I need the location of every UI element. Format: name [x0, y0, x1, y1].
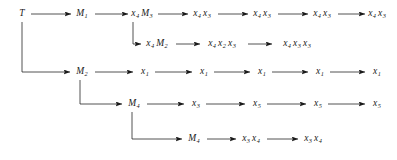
node-start-symbol: T	[19, 9, 24, 19]
edge-t-branch-to-m2	[22, 22, 70, 72]
node-x1-step4: x1	[316, 67, 324, 77]
node-m4-upper: M4	[128, 99, 139, 109]
node-m1: M1	[76, 9, 87, 19]
node-x5-step3: x5	[373, 99, 381, 109]
edge-x4m3-branch-to-x4m2	[133, 22, 141, 44]
edge-m2-branch-to-m4	[80, 80, 122, 104]
node-m4-lower: M4	[188, 134, 199, 144]
node-x4-x3-step2: x4x3	[253, 9, 271, 19]
node-x4-x3-step1: x4x3	[193, 9, 211, 19]
node-x1-step2: x1	[200, 67, 208, 77]
node-x4-m2: x4M2	[146, 39, 167, 49]
node-x4-x2-x3: x4x2x3	[208, 39, 236, 49]
node-x4-x3-step4: x4x3	[368, 9, 386, 19]
node-x1-step1: x1	[141, 67, 149, 77]
node-x4-x3-x3: x4x3x3	[283, 39, 311, 49]
node-x1-step3: x1	[258, 67, 266, 77]
edge-m4-branch-to-m4-lower	[132, 112, 182, 139]
node-x5-step1: x5	[253, 99, 261, 109]
node-x5-step2: x5	[314, 99, 322, 109]
node-m2: M2	[76, 67, 87, 77]
node-x4-m3: x4M3	[131, 9, 152, 19]
node-x3-row4: x3	[192, 99, 200, 109]
node-x1-step5: x1	[373, 67, 381, 77]
node-x3-x4-step2: x3x4	[304, 134, 322, 144]
derivation-tree-diagram: T M1 x4M3 x4x3 x4x3 x4x3 x4x3 x4M2 x4x2x…	[0, 0, 397, 160]
node-x3-x4-step1: x3x4	[242, 134, 260, 144]
node-x4-x3-step3: x4x3	[313, 9, 331, 19]
